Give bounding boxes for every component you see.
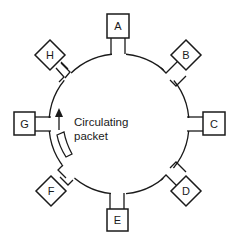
node-a: A: [107, 14, 129, 58]
packet-caption-line2: packet: [74, 130, 109, 142]
node-c-label: C: [210, 118, 218, 130]
node-a-label: A: [114, 20, 122, 32]
node-d-label: D: [182, 185, 190, 197]
node-f: F: [36, 164, 75, 206]
node-b: B: [161, 40, 201, 86]
node-e-label: E: [114, 214, 121, 226]
packet-caption-line1: Circulating: [74, 116, 128, 128]
node-f-label: F: [48, 185, 55, 197]
node-e: E: [107, 190, 128, 231]
node-c: C: [184, 112, 225, 135]
circulating-packet: [55, 108, 72, 157]
node-h-label: H: [46, 49, 54, 61]
packet-arrow-icon: [55, 108, 63, 117]
node-g: G: [14, 112, 54, 135]
node-d: D: [161, 162, 201, 206]
node-b-label: B: [182, 49, 189, 61]
node-h: H: [35, 40, 73, 82]
ring-network-diagram: A C E G H B: [0, 0, 238, 244]
packet-shape: [57, 132, 72, 157]
node-g-label: G: [20, 118, 29, 130]
